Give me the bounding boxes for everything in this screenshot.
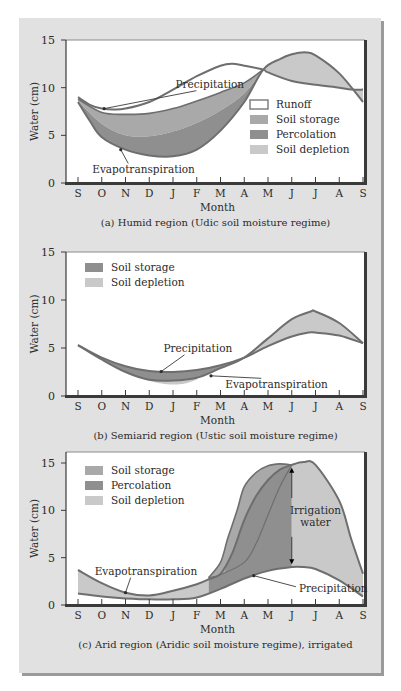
annotation-dot <box>103 107 106 110</box>
x-tick-label: J <box>170 400 175 412</box>
x-tick-label: D <box>145 187 153 199</box>
y-tick-label: 5 <box>48 552 55 565</box>
x-tick-label: J <box>312 609 317 621</box>
legend-swatch-depletion <box>85 278 103 287</box>
y-tick-label: 15 <box>41 246 55 259</box>
y-tick-label: 5 <box>48 342 55 355</box>
legend-swatch-storage <box>85 466 103 475</box>
x-axis <box>65 604 367 607</box>
x-tick-label: F <box>193 609 200 621</box>
y-axis-label: Water (cm) <box>28 499 40 558</box>
legend-swatch-percolation <box>85 481 103 490</box>
legend-label: Soil depletion <box>276 143 350 155</box>
annotation-label: water <box>300 516 332 528</box>
x-axis-label: Month <box>200 414 235 426</box>
plot-right-border <box>364 252 367 398</box>
y-tick-label: 0 <box>48 390 55 403</box>
annotation-dot <box>209 374 212 377</box>
x-tick-label: F <box>193 400 200 412</box>
annotation-dot <box>160 370 163 373</box>
x-tick-label: F <box>193 187 200 199</box>
x-tick-label: J <box>289 400 294 412</box>
x-axis <box>65 395 367 398</box>
legend-label: Percolation <box>276 128 337 140</box>
x-tick-label: O <box>97 400 106 412</box>
x-tick-label: J <box>289 609 294 621</box>
y-tick-label: 5 <box>48 129 55 142</box>
annotation-label: Precipitation <box>175 78 244 90</box>
x-tick-label: O <box>97 187 106 199</box>
annotation-label: Precipitation <box>299 582 368 594</box>
x-tick-label: M <box>263 609 274 621</box>
x-tick-label: S <box>74 187 81 199</box>
figure-svg: 051015SONDJFMAMJJASWater (cm)Month(a) Hu… <box>0 0 401 691</box>
x-tick-label: D <box>145 400 153 412</box>
chart-arid-region: 051015SONDJFMAMJJASWater (cm)Month(c) Ar… <box>28 452 368 650</box>
y-tick-label: 0 <box>48 177 55 190</box>
x-tick-label: M <box>263 400 274 412</box>
x-axis-label: Month <box>200 201 235 213</box>
legend-label: Soil storage <box>276 113 340 125</box>
x-tick-label: M <box>215 400 226 412</box>
chart-caption: (c) Arid region (Aridic soil moisture re… <box>78 639 353 650</box>
x-axis <box>65 182 367 185</box>
chart-caption: (b) Semiarid region (Ustic soil moisture… <box>93 430 337 441</box>
y-tick-label: 10 <box>41 504 55 517</box>
x-tick-label: J <box>170 609 175 621</box>
x-tick-label: A <box>239 187 248 199</box>
y-tick-label: 0 <box>48 599 55 612</box>
annotation-dot <box>124 591 127 594</box>
chart-caption: (a) Humid region (Udic soil moisture reg… <box>101 217 331 228</box>
x-tick-label: A <box>239 400 248 412</box>
x-tick-label: N <box>121 609 130 621</box>
annotation-dot <box>119 148 122 151</box>
x-tick-label: M <box>263 187 274 199</box>
x-tick-label: S <box>359 400 366 412</box>
x-tick-label: J <box>312 400 317 412</box>
y-axis-label: Water (cm) <box>28 82 40 141</box>
x-tick-label: N <box>121 400 130 412</box>
x-tick-label: D <box>145 609 153 621</box>
x-tick-label: S <box>359 187 366 199</box>
y-tick-label: 10 <box>41 294 55 307</box>
legend-label: Runoff <box>276 98 313 110</box>
x-tick-label: A <box>334 187 343 199</box>
x-tick-label: M <box>215 609 226 621</box>
x-axis-label: Month <box>200 623 235 635</box>
legend-label: Percolation <box>111 479 172 491</box>
legend-label: Soil storage <box>111 464 175 476</box>
plot-right-border <box>364 40 367 185</box>
x-tick-label: S <box>74 400 81 412</box>
legend-swatch-storage <box>250 115 268 124</box>
x-tick-label: N <box>121 187 130 199</box>
chart-humid-region: 051015SONDJFMAMJJASWater (cm)Month(a) Hu… <box>28 34 367 228</box>
legend-label: Soil depletion <box>111 494 185 506</box>
annotation-label: Evapotranspiration <box>92 163 195 175</box>
x-tick-label: J <box>170 187 175 199</box>
legend-label: Soil depletion <box>111 276 185 288</box>
x-tick-label: A <box>334 609 343 621</box>
annotation-label: Evapotranspiration <box>225 378 328 390</box>
annotation-label: Irrigation <box>290 504 341 516</box>
x-tick-label: O <box>97 609 106 621</box>
legend-swatch-percolation <box>85 263 103 272</box>
x-tick-label: S <box>359 609 366 621</box>
y-tick-label: 15 <box>41 457 55 470</box>
legend-swatch-outline <box>250 100 268 109</box>
x-tick-label: A <box>334 400 343 412</box>
x-tick-label: J <box>289 187 294 199</box>
y-axis-label: Water (cm) <box>28 295 40 354</box>
y-tick-label: 10 <box>41 82 55 95</box>
legend-swatch-depletion <box>85 496 103 505</box>
legend-label: Soil storage <box>111 261 175 273</box>
legend-swatch-percolation <box>250 130 268 139</box>
x-tick-label: J <box>312 187 317 199</box>
y-tick-label: 15 <box>41 34 55 47</box>
x-tick-label: M <box>215 187 226 199</box>
annotation-dot <box>252 574 255 577</box>
annotation-label: Evapotranspiration <box>95 565 198 577</box>
x-tick-label: S <box>74 609 81 621</box>
legend-swatch-depletion <box>250 145 268 154</box>
chart-semiarid-region: 051015SONDJFMAMJJASWater (cm)Month(b) Se… <box>28 246 367 441</box>
x-tick-label: A <box>239 609 248 621</box>
